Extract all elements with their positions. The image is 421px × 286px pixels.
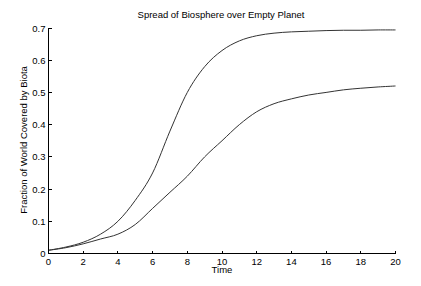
chart-title: Spread of Biosphere over Empty Planet [138,9,305,20]
y-tick-label: 0.3 [32,151,45,162]
x-tick-label: 4 [115,256,120,267]
x-tick-label: 2 [81,256,86,267]
y-tick-label: 0.6 [32,55,45,66]
x-tick-label: 8 [185,256,190,267]
x-tick-label: 14 [286,256,297,267]
series-line-lower [49,86,396,250]
y-axis-label: Fraction of World Covered by Biota [18,65,29,213]
x-tick-label: 12 [251,256,262,267]
x-tick-label: 18 [356,256,367,267]
y-tick-label: 0.2 [32,184,45,195]
y-tick-label: 0.5 [32,87,45,98]
x-axis-label: Time [212,264,233,275]
y-tick-label: 0.4 [32,119,45,130]
chart: Spread of Biosphere over Empty Planet 02… [0,0,421,286]
y-tick-label: 0.7 [32,23,45,34]
x-tick-label: 0 [46,256,51,267]
x-tick-label: 6 [150,256,155,267]
series-layer [49,30,396,250]
y-tick-label: 0.1 [32,216,45,227]
x-tick-label: 16 [321,256,332,267]
y-tick-label: 0 [40,248,45,259]
x-tick-label: 20 [390,256,401,267]
